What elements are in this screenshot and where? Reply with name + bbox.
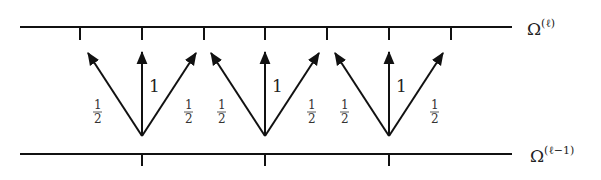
svg-text:1: 1	[218, 98, 226, 112]
svg-text:2: 2	[308, 112, 316, 126]
coarse-grid-ticks	[142, 154, 389, 166]
prolongation-diagram: Ω(ℓ) Ω(ℓ−1) 1 1 2 1 2 1 1	[0, 0, 601, 180]
weight-right-2: 1 2	[307, 98, 316, 126]
coarse-grid-level: Ω(ℓ−1)	[20, 144, 574, 166]
weight-right-1: 1 2	[184, 98, 193, 126]
stencil-1	[88, 52, 196, 136]
svg-text:1: 1	[431, 98, 439, 112]
svg-text:1: 1	[94, 98, 102, 112]
svg-text:2: 2	[94, 112, 102, 126]
coarse-level-label: Ω(ℓ−1)	[530, 144, 574, 166]
svg-text:1: 1	[185, 98, 193, 112]
weight-center-1: 1	[149, 76, 160, 96]
weight-left-1: 1 2	[93, 98, 102, 126]
fine-grid-ticks	[80, 27, 451, 40]
svg-text:1: 1	[308, 98, 316, 112]
weight-center-2: 1	[272, 76, 283, 96]
svg-text:2: 2	[185, 112, 193, 126]
weight-right-3: 1 2	[430, 98, 439, 126]
svg-text:2: 2	[431, 112, 439, 126]
stencil-3	[335, 52, 443, 136]
svg-text:1: 1	[341, 98, 349, 112]
svg-text:2: 2	[218, 112, 226, 126]
weight-center-3: 1	[396, 76, 407, 96]
svg-text:2: 2	[341, 112, 349, 126]
weight-left-2: 1 2	[217, 98, 226, 126]
fine-grid-level: Ω(ℓ)	[20, 17, 555, 40]
fine-level-label: Ω(ℓ)	[527, 17, 555, 39]
weight-left-3: 1 2	[340, 98, 349, 126]
stencil-2	[211, 52, 319, 136]
